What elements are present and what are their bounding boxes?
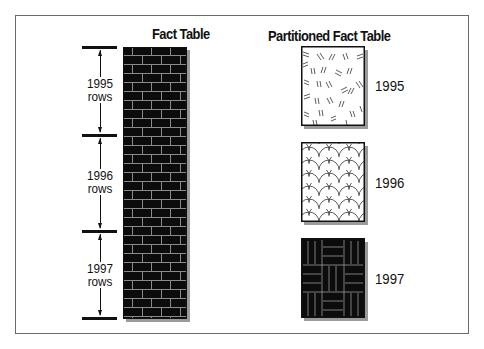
partition-label-1995: 1995	[375, 77, 404, 94]
segment-unit: rows	[82, 275, 118, 288]
segment-label-1995: 1995 rows	[82, 77, 118, 103]
segment-label-1996: 1996 rows	[82, 169, 118, 195]
partition-label-1996: 1996	[375, 174, 404, 191]
segment-unit: rows	[82, 90, 118, 103]
arrow-down-icon	[98, 310, 102, 316]
partition-label-1997: 1997	[375, 270, 404, 287]
segment-boundary-tick	[82, 317, 117, 320]
partitioned-table-title: Partitioned Fact Table	[268, 27, 390, 44]
arrow-down-icon	[98, 127, 102, 133]
fact-table-brick-bar	[123, 47, 187, 319]
segment-unit: rows	[82, 182, 118, 195]
arrow-up-icon	[98, 234, 102, 240]
segment-label-1997: 1997 rows	[82, 262, 118, 288]
arrow-up-icon	[98, 138, 102, 144]
partition-1997-basketweave-pattern	[301, 238, 365, 318]
partition-1996-scales-pattern	[301, 142, 365, 222]
segment-boundary-tick	[82, 134, 117, 137]
partition-1995-dashes-pattern	[301, 46, 365, 126]
fact-table-title: Fact Table	[152, 25, 210, 42]
segment-boundary-tick	[82, 230, 117, 233]
arrow-down-icon	[98, 223, 102, 229]
arrow-up-icon	[98, 50, 102, 56]
segment-boundary-tick	[82, 46, 117, 49]
